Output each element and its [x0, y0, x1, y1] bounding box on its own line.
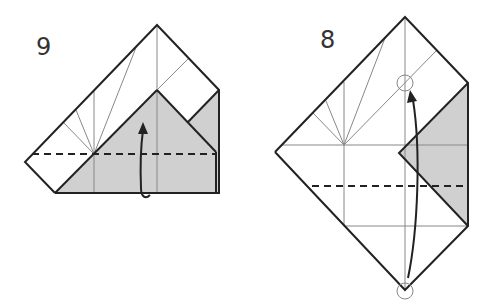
- step-number-9: 9: [36, 33, 51, 61]
- origami-diagram: 9: [0, 0, 496, 306]
- step-9: 9: [25, 25, 219, 197]
- step-8: 8: [275, 17, 468, 299]
- step-number-8: 8: [320, 26, 335, 54]
